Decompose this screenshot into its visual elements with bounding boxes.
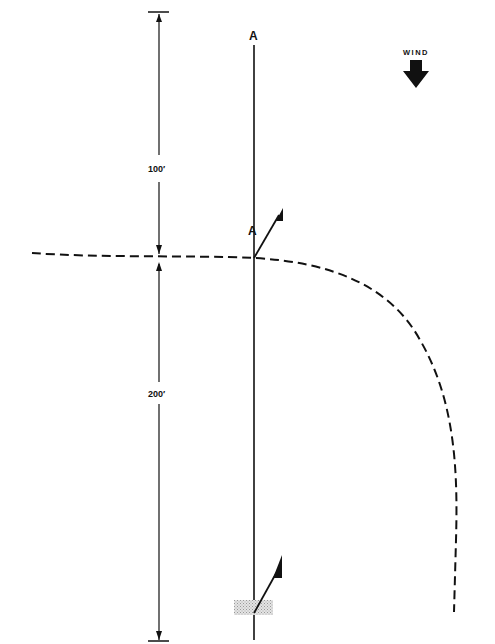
- wind-label: WIND: [403, 48, 429, 57]
- arrow-down-icon: [156, 631, 162, 640]
- ground-patch: [234, 600, 273, 615]
- dashed-boundary-curve: [32, 253, 456, 612]
- wind-arrow-down-icon: [403, 60, 429, 88]
- label-a-mid: A: [248, 224, 257, 238]
- label-a-top: A: [249, 29, 258, 43]
- dimension-line: [148, 12, 169, 641]
- dimension-label-100: 100′: [148, 164, 165, 174]
- diagram-canvas: 100′ 200′ A A WIND: [0, 0, 495, 644]
- flag-arrow-mid-icon: [254, 208, 283, 258]
- arrow-up-icon: [156, 14, 162, 22]
- arrow-down-icon: [156, 245, 162, 254]
- dimension-label-200: 200′: [148, 389, 165, 399]
